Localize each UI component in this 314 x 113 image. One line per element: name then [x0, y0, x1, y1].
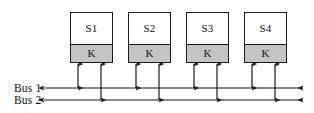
module-controller-section: K [245, 44, 286, 62]
module-box-s3: S3K [186, 12, 229, 63]
module-controller-section: K [187, 44, 228, 62]
module-controller-label: K [203, 48, 211, 59]
module-processor-label: S3 [201, 23, 213, 34]
module-controller-label: K [87, 48, 95, 59]
module-processor-section: S3 [187, 13, 228, 44]
bus-2-label: Bus 2 [14, 95, 42, 107]
module-processor-label: S4 [259, 23, 271, 34]
module-box-s4: S4K [244, 12, 287, 63]
module-box-s2: S2K [128, 12, 171, 63]
module-processor-section: S4 [245, 13, 286, 44]
bus-1-label: Bus 1 [14, 83, 42, 95]
module-controller-label: K [145, 48, 153, 59]
module-controller-section: K [129, 44, 170, 62]
module-box-s1: S1K [70, 12, 113, 63]
diagram-canvas: S1KS2KS3KS4K Bus 1Bus 2 [0, 0, 314, 113]
module-processor-section: S2 [129, 13, 170, 44]
module-processor-section: S1 [71, 13, 112, 44]
module-processor-label: S2 [143, 23, 155, 34]
module-controller-section: K [71, 44, 112, 62]
module-controller-label: K [261, 48, 269, 59]
module-processor-label: S1 [85, 23, 97, 34]
